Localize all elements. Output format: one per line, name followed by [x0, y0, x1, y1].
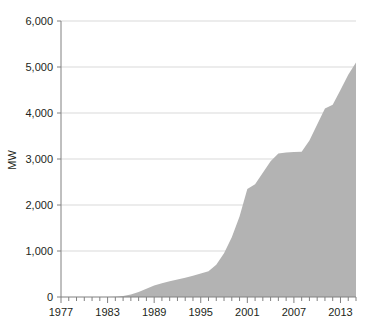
x-tick-label: 2001: [235, 306, 259, 318]
x-tick-label: 1989: [142, 306, 166, 318]
y-tick-label: 6,000: [25, 15, 53, 27]
x-tick-label: 1983: [95, 306, 119, 318]
y-axis-title: MW: [6, 150, 18, 170]
y-tick-label: 4,000: [25, 107, 53, 119]
x-tick-label: 2013: [328, 306, 352, 318]
y-tick-label: 5,000: [25, 61, 53, 73]
x-axis-tick-labels: 1977198319891995200120072013: [49, 306, 353, 318]
y-axis-ticks: [57, 21, 61, 297]
x-tick-label: 2007: [282, 306, 306, 318]
y-tick-label: 1,000: [25, 245, 53, 257]
chart-container: 01,0002,0003,0004,0005,0006,000 19771983…: [0, 0, 373, 331]
y-tick-label: 3,000: [25, 153, 53, 165]
x-tick-label: 1995: [188, 306, 212, 318]
y-axis-title-label: MW: [6, 150, 18, 170]
x-axis-minor-ticks: [61, 297, 356, 303]
area-chart: 01,0002,0003,0004,0005,0006,000 19771983…: [0, 0, 373, 331]
x-tick-label: 1977: [49, 306, 73, 318]
y-tick-label: 0: [47, 291, 53, 303]
y-axis-tick-labels: 01,0002,0003,0004,0005,0006,000: [25, 15, 53, 303]
y-tick-label: 2,000: [25, 199, 53, 211]
